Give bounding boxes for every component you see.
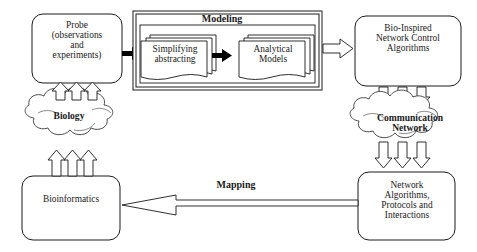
node-bioinformatics[interactable] — [22, 176, 120, 240]
edge-biology-to-probe — [52, 82, 101, 100]
edge-communication-network-to-network-algorithms — [375, 142, 430, 168]
node-simplifying-abstracting[interactable] — [141, 35, 216, 80]
node-network-algorithms[interactable] — [358, 172, 455, 240]
diagram-graphics: .sh { fill:#ffffff; stroke:#1a1a1a; stro… — [0, 0, 477, 252]
diagram-canvas: .sh { fill:#ffffff; stroke:#1a1a1a; stro… — [0, 0, 477, 252]
node-communication-network[interactable] — [350, 90, 438, 138]
node-probe[interactable] — [32, 14, 122, 83]
edge-mapping[interactable] — [122, 195, 358, 215]
node-biology[interactable] — [25, 87, 113, 135]
node-analytical-models[interactable] — [239, 35, 314, 80]
edge-bioinformatics-to-biology — [48, 150, 97, 176]
node-bio-inspired[interactable] — [355, 16, 461, 86]
edge-modeling-to-bioinspired — [323, 39, 353, 58]
